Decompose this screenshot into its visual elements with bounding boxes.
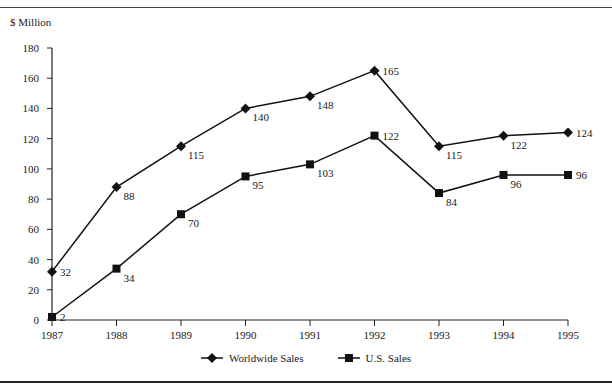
x-tick-label: 1992	[364, 329, 386, 341]
diamond-marker-icon	[201, 353, 223, 363]
x-tick-label: 1993	[428, 329, 451, 341]
x-tick-label: 1988	[106, 329, 129, 341]
data-label: 165	[383, 65, 400, 77]
square-marker-icon	[306, 160, 314, 168]
square-marker-icon	[242, 172, 250, 180]
y-tick-label: 80	[28, 193, 40, 205]
data-label: 32	[60, 266, 71, 278]
x-tick-label: 1989	[170, 329, 193, 341]
x-tick-label: 1994	[493, 329, 516, 341]
data-label: 88	[124, 190, 136, 202]
legend-label-us: U.S. Sales	[366, 352, 412, 364]
bottom-rule	[0, 381, 612, 383]
y-tick-label: 140	[23, 102, 40, 114]
x-tick-label: 1990	[235, 329, 258, 341]
data-label: 84	[446, 196, 458, 208]
legend-item-us: U.S. Sales	[338, 352, 412, 364]
y-tick-label: 160	[23, 72, 40, 84]
data-label: 115	[188, 149, 205, 161]
data-label: 34	[124, 272, 136, 284]
diamond-marker-icon	[241, 103, 251, 113]
square-marker-icon	[177, 210, 185, 218]
x-tick-label: 1987	[41, 329, 64, 341]
data-label: 103	[317, 167, 334, 179]
data-label: 122	[383, 130, 400, 142]
data-label: 70	[188, 217, 200, 229]
square-marker-icon	[371, 132, 379, 140]
data-label: 124	[576, 127, 593, 139]
data-label: 140	[253, 111, 270, 123]
diamond-marker-icon	[176, 141, 186, 151]
square-marker-icon	[435, 189, 443, 197]
data-label: 95	[253, 179, 265, 191]
x-tick-label: 1995	[557, 329, 580, 341]
y-tick-label: 20	[28, 284, 40, 296]
legend-item-worldwide: Worldwide Sales	[201, 352, 304, 364]
y-tick-label: 0	[34, 314, 40, 326]
diamond-marker-icon	[563, 128, 573, 138]
square-marker-icon	[48, 313, 56, 321]
square-marker-icon	[564, 171, 572, 179]
data-label: 148	[317, 99, 334, 111]
legend-label-worldwide: Worldwide Sales	[229, 352, 304, 364]
square-marker-icon	[113, 265, 121, 273]
diamond-marker-icon	[305, 91, 315, 101]
data-label: 122	[511, 139, 528, 151]
data-label: 96	[576, 169, 588, 181]
legend: Worldwide Sales U.S. Sales	[0, 352, 612, 364]
diamond-marker-icon	[499, 131, 509, 141]
y-tick-label: 100	[23, 163, 40, 175]
y-tick-label: 60	[28, 223, 40, 235]
y-tick-label: 40	[28, 254, 40, 266]
data-label: 115	[446, 149, 463, 161]
data-label: 96	[511, 178, 523, 190]
y-tick-label: 180	[23, 42, 40, 54]
data-label: 2	[60, 311, 66, 323]
y-tick-label: 120	[23, 133, 40, 145]
x-tick-label: 1991	[299, 329, 321, 341]
square-marker-icon	[500, 171, 508, 179]
line-chart: 0204060801001201401601801987198819891990…	[0, 0, 612, 389]
square-marker-icon	[338, 353, 360, 363]
